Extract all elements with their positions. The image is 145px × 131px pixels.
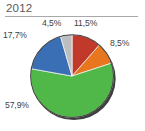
title-divider (5, 16, 138, 17)
pie-slice-value-1: 11,5% (74, 18, 97, 28)
pie-slice-value-2: 8,5% (110, 38, 129, 48)
pie-chart-figure: 2012 11,5% 8,5% 57,9% 17,7% 4,5% (0, 0, 145, 131)
pie-slice-value-3: 57,9% (5, 100, 29, 110)
pie-svg (28, 32, 117, 121)
pie-slice-value-5: 4,5% (42, 18, 61, 28)
pie-slice-value-4: 17,7% (3, 30, 27, 40)
chart-title: 2012 (6, 1, 32, 15)
pie-plot-area (28, 32, 117, 121)
